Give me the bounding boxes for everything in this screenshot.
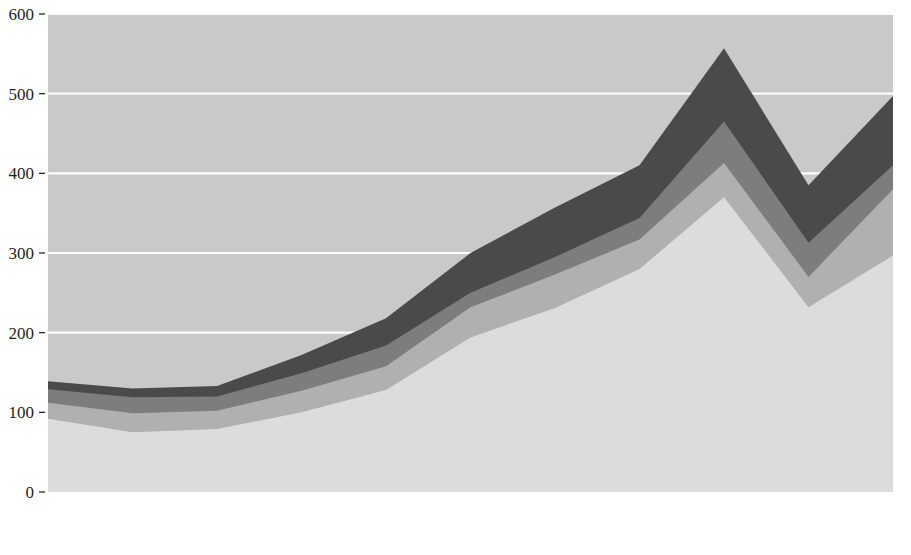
- y-tick-label: 100: [9, 403, 35, 422]
- y-tick-label: 500: [9, 85, 35, 104]
- y-tick-label: 200: [9, 324, 35, 343]
- y-tick-label: 600: [9, 5, 35, 24]
- y-tick-label: 0: [26, 483, 35, 502]
- y-tick-label: 300: [9, 244, 35, 263]
- stacked-area-chart: 6005004003002001000: [0, 0, 911, 555]
- chart-canvas: 6005004003002001000: [0, 0, 911, 555]
- chart-title-clipped: [150, 0, 570, 2]
- y-tick-label: 400: [9, 164, 35, 183]
